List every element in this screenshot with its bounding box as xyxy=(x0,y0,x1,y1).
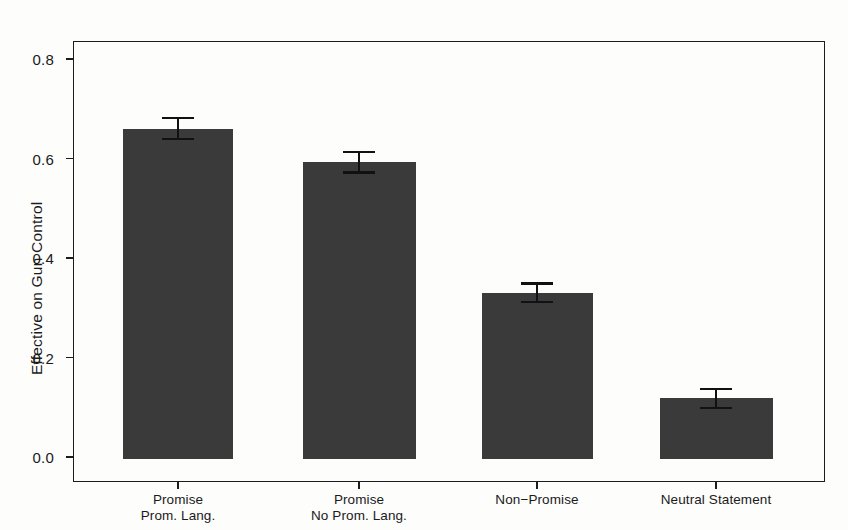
error-bar-line xyxy=(177,118,179,139)
x-tick-label-line: No Prom. Lang. xyxy=(311,508,407,524)
x-tick-label: PromiseNo Prom. Lang. xyxy=(311,492,407,524)
y-tick-mark xyxy=(66,257,73,259)
error-bar-cap-lower xyxy=(521,301,553,303)
y-tick-label: 0.0 xyxy=(0,449,59,466)
x-tick-label-line: Promise xyxy=(311,492,407,508)
bar xyxy=(123,129,233,459)
y-tick-label: 0.6 xyxy=(0,150,59,167)
x-tick-label-line: Prom. Lang. xyxy=(141,508,216,524)
x-tick-label: PromiseProm. Lang. xyxy=(141,492,216,524)
x-tick-mark xyxy=(536,482,538,489)
error-bar-cap-upper xyxy=(162,117,194,119)
error-bar-cap-lower xyxy=(700,407,732,409)
error-bar-cap-upper xyxy=(700,388,732,390)
bar xyxy=(303,162,416,459)
error-bar-cap-upper xyxy=(343,151,375,153)
x-tick-label-line: Promise xyxy=(141,492,216,508)
x-tick-mark xyxy=(358,482,360,489)
x-tick-label: Non−Promise xyxy=(495,492,578,508)
x-tick-label: Neutral Statement xyxy=(661,492,772,508)
y-tick-label: 0.4 xyxy=(0,250,59,267)
x-tick-mark xyxy=(715,482,717,489)
y-tick-mark xyxy=(66,58,73,60)
error-bar-line xyxy=(715,389,717,408)
y-tick-label: 0.2 xyxy=(0,349,59,366)
bar-chart-figure: Effective on Gun Control 0.00.20.40.60.8… xyxy=(0,0,848,530)
error-bar-cap-upper xyxy=(521,282,553,284)
y-tick-mark xyxy=(66,158,73,160)
error-bar-line xyxy=(536,283,538,302)
error-bar-cap-lower xyxy=(162,138,194,140)
y-tick-label: 0.8 xyxy=(0,51,59,68)
x-tick-mark xyxy=(177,482,179,489)
x-tick-label-line: Neutral Statement xyxy=(661,492,772,508)
x-tick-label-line: Non−Promise xyxy=(495,492,578,508)
error-bar-line xyxy=(358,152,360,173)
y-tick-mark xyxy=(66,357,73,359)
y-tick-mark xyxy=(66,456,73,458)
error-bar-cap-lower xyxy=(343,171,375,173)
bar xyxy=(482,293,593,459)
